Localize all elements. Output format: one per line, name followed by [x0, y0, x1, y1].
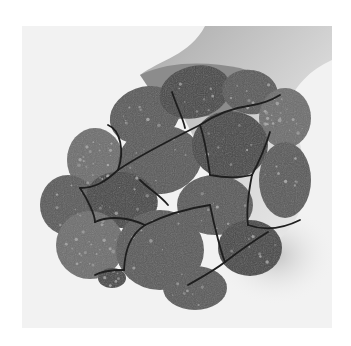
speckle — [99, 177, 101, 179]
speckle — [183, 292, 186, 295]
speckle — [230, 249, 233, 252]
speckle — [129, 167, 131, 169]
speckle — [133, 188, 135, 190]
speckle — [86, 182, 89, 185]
speckle — [56, 193, 58, 195]
speckle — [90, 244, 92, 246]
speckle — [83, 160, 85, 162]
speckle — [197, 304, 199, 306]
speckle — [99, 150, 101, 152]
speckle — [84, 251, 87, 254]
speckle — [263, 122, 267, 126]
speckle — [286, 109, 288, 111]
speckle — [247, 99, 250, 102]
speckle — [274, 244, 276, 246]
speckle — [266, 260, 269, 263]
speckle — [201, 192, 204, 195]
speckle — [252, 235, 255, 238]
speckle — [248, 238, 250, 240]
speckle — [89, 150, 92, 153]
speckle — [115, 211, 119, 215]
speckle — [264, 174, 265, 175]
speckle — [145, 194, 149, 198]
speckle — [252, 101, 255, 104]
speckle — [208, 109, 210, 111]
speckle — [125, 122, 128, 125]
speckle — [284, 180, 287, 183]
speckle — [80, 262, 81, 263]
speckle — [92, 174, 94, 176]
speckle — [65, 243, 68, 246]
speckle — [101, 178, 103, 180]
speckle — [76, 263, 79, 266]
speckle — [184, 101, 185, 102]
speckle — [238, 124, 241, 127]
speckle — [227, 223, 230, 226]
speckle — [123, 115, 125, 117]
speckle — [71, 185, 73, 187]
speckle — [280, 112, 282, 114]
speckle — [141, 230, 143, 232]
speckle — [295, 181, 297, 183]
speckle — [211, 94, 214, 97]
speckle — [157, 124, 161, 128]
speckle — [103, 239, 106, 242]
speckle — [119, 187, 120, 188]
speckle — [125, 120, 126, 121]
speckle — [80, 255, 82, 257]
speckle — [176, 282, 179, 285]
speckle — [174, 149, 176, 151]
speckle — [302, 128, 303, 129]
speckle — [246, 149, 248, 151]
speckle — [96, 253, 98, 255]
speckle — [267, 83, 270, 86]
speckle — [237, 85, 238, 86]
speckle — [99, 207, 102, 210]
speckle — [143, 149, 144, 150]
speckle — [250, 144, 252, 146]
speckle — [146, 118, 150, 122]
speckle — [136, 208, 139, 211]
speckle — [162, 249, 163, 250]
speckle — [110, 155, 111, 156]
speckle — [82, 230, 85, 233]
speckle — [217, 146, 219, 148]
speckle — [177, 223, 179, 225]
speckle — [139, 109, 141, 111]
speckle — [203, 98, 205, 100]
speckle — [92, 264, 95, 267]
speckle — [101, 223, 104, 226]
speckle — [109, 284, 112, 287]
speckle — [248, 246, 250, 248]
speckle — [178, 88, 180, 90]
speckle — [275, 166, 277, 168]
speckle — [117, 272, 119, 274]
speckle — [230, 97, 232, 99]
speckle — [111, 250, 115, 254]
speckle — [99, 249, 100, 250]
speckle — [258, 252, 261, 255]
speckle — [266, 117, 269, 120]
speckle — [210, 88, 212, 90]
speckle — [85, 166, 87, 168]
speckle — [79, 214, 81, 216]
speckle — [294, 184, 296, 186]
speckle — [160, 272, 161, 273]
speckle — [272, 122, 275, 125]
speckle — [114, 239, 116, 241]
speckle — [271, 115, 273, 117]
clod-segment — [163, 266, 227, 310]
speckle — [99, 144, 100, 145]
clod-segment — [192, 111, 268, 179]
speckle — [181, 273, 183, 275]
speckle — [132, 267, 135, 270]
speckle — [296, 123, 298, 125]
speckle — [294, 157, 297, 160]
speckle — [247, 109, 248, 110]
speckle — [103, 276, 106, 279]
speckle — [89, 263, 90, 264]
speckle — [179, 83, 182, 86]
speckle — [222, 138, 223, 139]
speckle — [244, 204, 247, 207]
speckle — [296, 131, 300, 135]
